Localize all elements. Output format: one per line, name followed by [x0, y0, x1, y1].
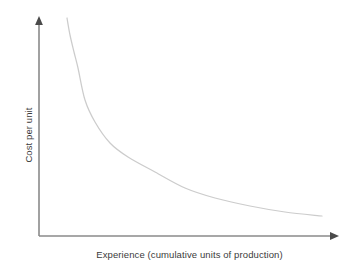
- experience-curve-line: [67, 18, 322, 216]
- x-axis-arrowhead: [330, 232, 339, 240]
- chart-canvas: [0, 0, 351, 270]
- y-axis-label: Cost per unit: [23, 70, 35, 200]
- y-axis-arrowhead: [35, 16, 43, 25]
- experience-curve-chart: Experience (cumulative units of producti…: [0, 0, 351, 270]
- x-axis-label: Experience (cumulative units of producti…: [0, 249, 351, 261]
